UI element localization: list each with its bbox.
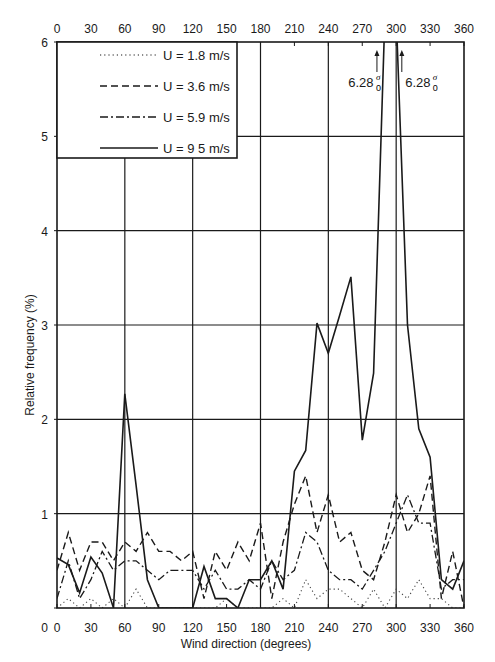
x-tick-label-top: 120: [183, 22, 203, 36]
x-tick-label-top: 240: [318, 22, 338, 36]
x-tick-label-top: 300: [386, 22, 406, 36]
x-tick-label-top: 90: [152, 22, 166, 36]
x-tick-label-top: 60: [118, 22, 132, 36]
x-tick-label: 60: [118, 621, 132, 635]
arrow-head-icon: [374, 50, 379, 56]
x-tick-label: 0: [54, 621, 61, 635]
legend-label: U = 3.6 m/s: [163, 79, 230, 94]
legend: U = 1.8 m/sU = 3.6 m/sU = 5.9 m/sU = 9 5…: [57, 42, 237, 158]
y-tick-label: 1: [41, 508, 48, 522]
x-tick-label-top: 330: [420, 22, 440, 36]
x-tick-label: 210: [284, 621, 304, 635]
x-tick-label: 120: [183, 621, 203, 635]
x-tick-label: 360: [454, 621, 474, 635]
y-tick-label: 5: [41, 130, 48, 144]
wind-direction-chart: 0030306060909012012015015018018021021024…: [0, 0, 495, 662]
peak-annotations: 6.28σ06.28σ0: [348, 50, 438, 93]
x-tick-label-top: 0: [54, 22, 61, 36]
x-tick-label: 90: [152, 621, 166, 635]
peak-value-subscript: 0: [433, 83, 438, 93]
peak-value-subscript: 0: [376, 83, 381, 93]
x-tick-label: 330: [420, 621, 440, 635]
y-tick-label: 0: [41, 621, 48, 635]
x-tick-label-top: 270: [352, 22, 372, 36]
x-tick-label-top: 30: [84, 22, 98, 36]
x-tick-label-top: 180: [250, 22, 270, 36]
legend-label: U = 5.9 m/s: [163, 110, 230, 125]
y-tick-label: 6: [41, 36, 48, 50]
x-tick-label: 180: [250, 621, 270, 635]
peak-value-label: 6.28: [348, 75, 373, 90]
peak-value-superscript: σ: [433, 72, 438, 82]
x-tick-label: 240: [318, 621, 338, 635]
x-tick-label-top: 210: [284, 22, 304, 36]
y-tick-label: 2: [41, 413, 48, 427]
x-tick-label: 150: [217, 621, 237, 635]
x-tick-label-top: 150: [217, 22, 237, 36]
y-tick-label: 3: [41, 319, 48, 333]
x-tick-label: 30: [84, 621, 98, 635]
x-axis-title: Wind direction (degrees): [181, 637, 312, 651]
x-tick-label: 270: [352, 621, 372, 635]
peak-value-superscript: σ: [376, 72, 381, 82]
legend-label: U = 1.8 m/s: [163, 48, 230, 63]
y-tick-label: 4: [41, 225, 48, 239]
x-tick-label-top: 360: [454, 22, 474, 36]
peak-value-label: 6.28: [405, 75, 430, 90]
arrow-head-icon: [399, 50, 404, 56]
x-tick-label: 300: [386, 621, 406, 635]
legend-label: U = 9 5 m/s: [163, 141, 230, 156]
y-axis-title: Relative frequency (%): [23, 294, 37, 415]
